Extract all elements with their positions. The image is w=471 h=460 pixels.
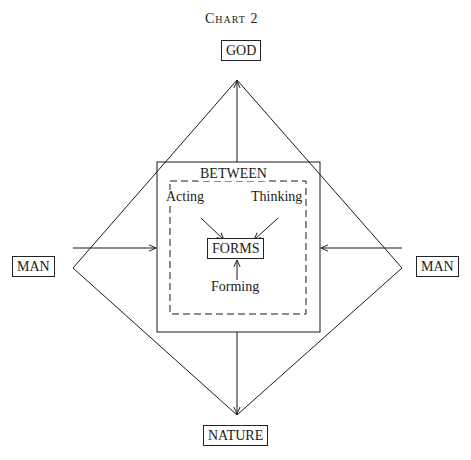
diagram-lines [0, 0, 471, 460]
between-title: BETWEEN [198, 167, 269, 181]
node-nature: NATURE [203, 425, 268, 446]
arrow-acting-forms [201, 218, 224, 240]
node-god: GOD [221, 40, 261, 61]
node-man-left: MAN [12, 256, 55, 277]
node-man-right: MAN [416, 256, 459, 277]
label-forming: Forming [211, 280, 259, 294]
label-thinking: Thinking [250, 190, 303, 204]
node-forms: FORMS [207, 238, 264, 259]
chart-caption: Chart 2 [205, 12, 258, 26]
arrow-thinking-forms [254, 218, 278, 240]
label-acting: Acting [165, 190, 205, 204]
